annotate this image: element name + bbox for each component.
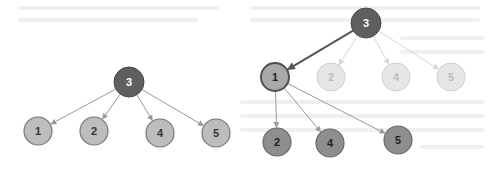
right-grandchild-node-4: 4 bbox=[316, 129, 344, 157]
node-label: 2 bbox=[91, 125, 97, 137]
left-root-node-3: 3 bbox=[114, 67, 144, 97]
edge-right-1-to-4 bbox=[284, 88, 320, 132]
edge-left-root-to-2 bbox=[103, 94, 121, 119]
tree-nodes: 3124531245245 bbox=[24, 8, 465, 157]
node-label: 5 bbox=[213, 127, 219, 139]
node-label: 1 bbox=[35, 125, 41, 137]
right-faded-node-4: 4 bbox=[382, 63, 410, 91]
node-label: 4 bbox=[157, 127, 164, 139]
right-selected-node-1: 1 bbox=[261, 63, 289, 91]
node-label: 5 bbox=[395, 134, 401, 146]
node-label: 2 bbox=[328, 71, 334, 83]
edge-right-root-to-5 bbox=[379, 31, 439, 69]
edge-right-root-to-4 bbox=[373, 36, 388, 64]
node-label: 1 bbox=[272, 71, 278, 83]
edge-right-1-to-5 bbox=[287, 83, 384, 133]
edge-left-root-to-4 bbox=[137, 95, 152, 120]
right-faded-node-5: 5 bbox=[437, 63, 465, 91]
node-label: 3 bbox=[126, 76, 132, 88]
edge-left-root-to-1 bbox=[51, 89, 116, 124]
right-faded-node-2: 2 bbox=[317, 63, 345, 91]
node-label: 2 bbox=[274, 136, 280, 148]
left-child-node-4: 4 bbox=[146, 119, 174, 147]
right-grandchild-node-2: 2 bbox=[263, 128, 291, 156]
node-label: 4 bbox=[327, 137, 334, 149]
node-label: 4 bbox=[393, 71, 400, 83]
edge-right-root-to-2 bbox=[339, 36, 358, 65]
edge-left-root-to-5 bbox=[142, 90, 203, 126]
left-child-node-1: 1 bbox=[24, 117, 52, 145]
right-grandchild-node-5: 5 bbox=[384, 126, 412, 154]
edge-right-root-to-1 bbox=[288, 31, 353, 70]
node-label: 5 bbox=[448, 71, 454, 83]
tree-edges bbox=[51, 31, 438, 134]
node-label: 3 bbox=[363, 17, 369, 29]
tree-diagram: 3124531245245 bbox=[0, 0, 490, 170]
edge-right-1-to-2 bbox=[275, 91, 276, 127]
left-child-node-5: 5 bbox=[202, 119, 230, 147]
left-child-node-2: 2 bbox=[80, 117, 108, 145]
right-root-node-3: 3 bbox=[351, 8, 381, 38]
